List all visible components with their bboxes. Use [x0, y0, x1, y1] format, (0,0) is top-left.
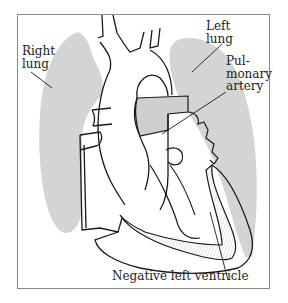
right-lung-label: Right lung — [22, 45, 55, 70]
right-atrium — [80, 132, 122, 232]
left-lung-label: Left lung — [206, 20, 233, 45]
pulmonary-artery-shape — [135, 96, 188, 136]
pulmonary-artery-label: Pul- monary artery — [226, 55, 272, 93]
negative-left-ventricle-label: Negative left ventricle — [112, 270, 248, 283]
heart-diagram: Right lung Left lung Pul- monary artery … — [0, 0, 288, 303]
